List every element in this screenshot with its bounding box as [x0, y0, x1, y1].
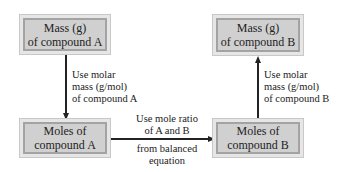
mass-a-line1: Mass (g) — [44, 21, 86, 35]
moles-compound-b-box: Moles of compound B — [212, 118, 304, 158]
arrow-ratio-shaft — [111, 138, 211, 140]
molar-mass-b-label: Use molar mass (g/mol) of compound B — [264, 69, 329, 105]
moles-a-line1: Moles of — [44, 124, 87, 138]
moles-b-line1: Moles of — [237, 124, 280, 138]
arrow-a-shaft — [65, 55, 67, 115]
mass-compound-a-box: Mass (g) of compound A — [19, 14, 111, 55]
arrow-b-shaft — [257, 60, 259, 118]
moles-a-line2: compound A — [34, 138, 96, 152]
molar-mass-a-label: Use molar mass (g/mol) of compound A — [72, 69, 137, 105]
balanced-equation-label: from balanced equation — [126, 143, 208, 167]
moles-b-line2: compound B — [227, 138, 289, 152]
arrow-up-icon — [255, 56, 261, 63]
mole-ratio-label: Use mole ratio of A and B — [126, 113, 208, 137]
mass-compound-b-box: Mass (g) of compound B — [212, 14, 304, 56]
moles-compound-a-box: Moles of compound A — [19, 118, 111, 158]
mass-b-line2: of compound B — [221, 35, 296, 49]
mass-a-line2: of compound A — [28, 35, 103, 49]
mass-b-line1: Mass (g) — [237, 21, 279, 35]
